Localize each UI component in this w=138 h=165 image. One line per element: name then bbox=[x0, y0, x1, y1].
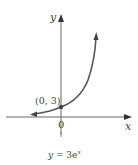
y-axis-label: y bbox=[50, 11, 56, 24]
caption-exponent: x bbox=[77, 148, 80, 155]
curve-left-arrow-icon bbox=[30, 112, 37, 118]
x-axis-label: x bbox=[125, 120, 131, 133]
curve-top-arrow-icon bbox=[94, 32, 99, 40]
caption: y = 3ex bbox=[48, 148, 81, 160]
origin-label: 0 bbox=[58, 119, 64, 130]
point-label: (0, 3) bbox=[35, 95, 61, 106]
y-axis-arrow-icon bbox=[58, 14, 64, 22]
exponential-graph bbox=[0, 0, 138, 165]
caption-equation: = 3e bbox=[53, 150, 77, 160]
